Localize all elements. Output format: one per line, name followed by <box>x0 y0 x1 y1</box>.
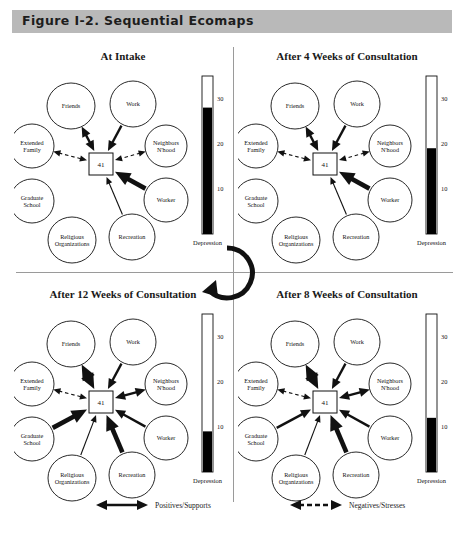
positive-arrow-icon <box>96 498 148 512</box>
svg-text:41: 41 <box>98 161 106 169</box>
panel-after-4-weeks: After 4 Weeks of Consultation FriendsWor… <box>238 50 456 265</box>
svg-text:N'hood: N'hood <box>157 146 176 153</box>
legend-item-negative: Negatives/Stresses <box>290 498 405 512</box>
svg-text:10: 10 <box>217 185 223 192</box>
ecomap-after-8-weeks: FriendsWorkExtendedFamilyNeighborsN'hood… <box>238 302 456 502</box>
svg-text:Neighbors: Neighbors <box>377 377 403 384</box>
svg-text:Neighbors: Neighbors <box>377 139 403 146</box>
legend-item-positive: Positives/Supports <box>96 498 211 512</box>
svg-text:10: 10 <box>217 423 223 430</box>
svg-text:30: 30 <box>217 95 223 102</box>
svg-text:Religious: Religious <box>60 471 84 478</box>
svg-text:10: 10 <box>441 185 447 192</box>
panel-title-after-8-weeks: After 8 Weeks of Consultation <box>238 288 456 300</box>
legend-label-positive: Positives/Supports <box>155 501 211 510</box>
panel-title-at-intake: At Intake <box>14 50 232 62</box>
svg-text:Work: Work <box>350 338 364 345</box>
svg-text:Organizations: Organizations <box>55 240 90 247</box>
svg-text:Graduate: Graduate <box>245 432 268 439</box>
negative-arrow-icon <box>290 498 342 512</box>
svg-text:30: 30 <box>217 333 223 340</box>
svg-text:Family: Family <box>247 384 265 391</box>
svg-text:Organizations: Organizations <box>279 240 314 247</box>
svg-text:Worker: Worker <box>381 196 399 203</box>
svg-text:Friends: Friends <box>286 340 305 347</box>
ecomap-after-12-weeks: FriendsWorkExtendedFamilyNeighborsN'hood… <box>14 302 232 502</box>
figure-title: Figure I-2. Sequential Ecomaps <box>22 13 254 28</box>
svg-text:Recreation: Recreation <box>119 233 146 240</box>
svg-text:10: 10 <box>441 423 447 430</box>
panel-after-12-weeks: After 12 Weeks of Consultation FriendsWo… <box>14 288 232 503</box>
figure-root: Figure I-2. Sequential Ecomaps At Intake… <box>0 0 463 539</box>
svg-text:Work: Work <box>126 100 140 107</box>
svg-text:Friends: Friends <box>62 102 81 109</box>
svg-text:Worker: Worker <box>157 434 175 441</box>
svg-text:Family: Family <box>23 384 41 391</box>
svg-text:Graduate: Graduate <box>21 432 44 439</box>
clockwise-sequence-arrow <box>196 242 258 304</box>
svg-text:N'hood: N'hood <box>157 384 176 391</box>
svg-text:Worker: Worker <box>157 196 175 203</box>
svg-text:Organizations: Organizations <box>55 478 90 485</box>
svg-text:41: 41 <box>322 161 330 169</box>
svg-text:30: 30 <box>441 333 447 340</box>
svg-text:Family: Family <box>23 146 41 153</box>
svg-text:Extended: Extended <box>244 139 268 146</box>
svg-text:Friends: Friends <box>286 102 305 109</box>
panel-after-8-weeks: After 8 Weeks of Consultation FriendsWor… <box>238 288 456 503</box>
svg-text:Friends: Friends <box>62 340 81 347</box>
svg-text:Work: Work <box>126 338 140 345</box>
svg-text:20: 20 <box>441 140 447 147</box>
svg-text:Depression: Depression <box>193 477 223 484</box>
svg-text:Graduate: Graduate <box>21 194 44 201</box>
panel-title-after-4-weeks: After 4 Weeks of Consultation <box>238 50 456 62</box>
svg-text:Recreation: Recreation <box>343 233 370 240</box>
legend: Positives/Supports Negatives/Stresses <box>0 498 463 524</box>
svg-text:Extended: Extended <box>244 377 268 384</box>
svg-text:20: 20 <box>217 378 223 385</box>
svg-text:Family: Family <box>247 146 265 153</box>
svg-text:20: 20 <box>441 378 447 385</box>
svg-text:Extended: Extended <box>20 377 44 384</box>
svg-text:N'hood: N'hood <box>381 384 400 391</box>
legend-label-negative: Negatives/Stresses <box>349 501 405 510</box>
svg-text:School: School <box>23 201 40 208</box>
svg-text:Organizations: Organizations <box>279 478 314 485</box>
ecomap-after-4-weeks: FriendsWorkExtendedFamilyNeighborsN'hood… <box>238 64 456 264</box>
svg-text:Neighbors: Neighbors <box>153 139 179 146</box>
svg-text:Depression: Depression <box>417 477 447 484</box>
svg-text:Neighbors: Neighbors <box>153 377 179 384</box>
svg-text:School: School <box>23 439 40 446</box>
svg-text:41: 41 <box>98 399 106 407</box>
panel-at-intake: At Intake FriendsWorkExtendedFamilyNeigh… <box>14 50 232 265</box>
svg-text:Recreation: Recreation <box>119 471 146 478</box>
svg-text:Graduate: Graduate <box>245 194 268 201</box>
svg-text:N'hood: N'hood <box>381 146 400 153</box>
svg-text:30: 30 <box>441 95 447 102</box>
svg-text:Religious: Religious <box>284 233 308 240</box>
svg-text:41: 41 <box>322 399 330 407</box>
svg-text:Religious: Religious <box>60 233 84 240</box>
svg-text:Recreation: Recreation <box>343 471 370 478</box>
svg-text:20: 20 <box>217 140 223 147</box>
svg-text:Religious: Religious <box>284 471 308 478</box>
svg-text:School: School <box>247 439 264 446</box>
svg-text:School: School <box>247 201 264 208</box>
ecomap-at-intake: FriendsWorkExtendedFamilyNeighborsN'hood… <box>14 64 232 264</box>
svg-text:Worker: Worker <box>381 434 399 441</box>
svg-text:Extended: Extended <box>20 139 44 146</box>
svg-text:Depression: Depression <box>417 239 447 246</box>
svg-text:Work: Work <box>350 100 364 107</box>
